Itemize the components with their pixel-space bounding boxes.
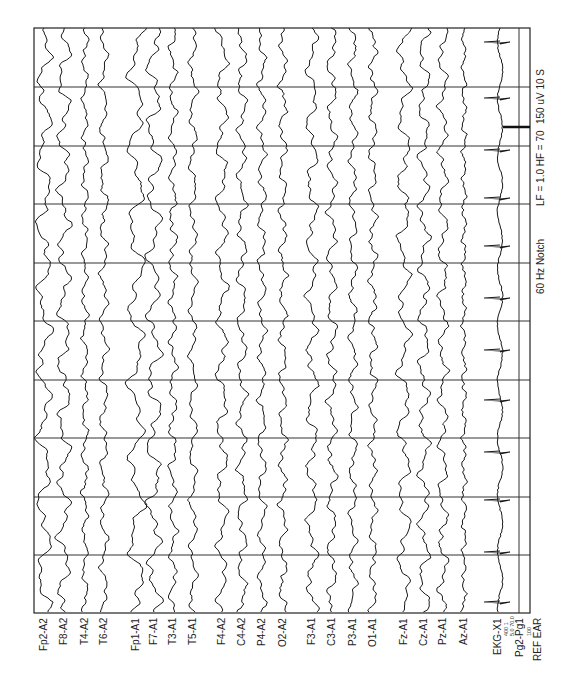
channel-trace [98,28,110,612]
notch-annotation: 60 Hz Notch [536,239,546,294]
channel-trace [235,28,249,612]
channel-trace [256,28,268,612]
qrs-spike [484,41,510,44]
channel-label: F8-A2 [59,618,69,645]
channel-label: F3-A1 [307,618,317,645]
channel-trace [168,28,179,612]
channel-trace [145,28,164,612]
qrs-spike [484,349,510,352]
channel-label: Pg2-Pg1 [515,618,525,657]
qrs-spike [484,499,510,502]
qrs-spike [484,601,510,604]
channel-label: Az-A1 [459,618,469,645]
channel-trace [395,28,413,612]
channel-label: F4-A2 [217,618,227,645]
qrs-spike [484,149,510,152]
channel-trace [347,28,358,612]
channel-trace [325,28,338,612]
channel-trace [416,28,431,612]
qrs-spike [484,245,510,248]
channel-label: C4-A2 [237,618,247,646]
channel-label: Fp1-A1 [131,618,141,651]
channel-trace [436,28,450,612]
qrs-spike [484,97,510,100]
channel-label: Fz-A1 [399,618,409,645]
filter-annotation: LF = 1.0 HF = 70 [536,130,546,206]
channel-label: C3-A1 [327,618,337,646]
channel-label: O1-A1 [368,618,378,647]
calibration-annotation: 150 uV 10 S [536,69,546,124]
channel-label: O2-A2 [278,618,288,647]
channel-trace [368,28,379,612]
channel-trace [277,28,289,612]
channel-label: Pz-A1 [438,618,448,645]
channel-trace [215,28,230,612]
qrs-spike [484,297,510,300]
channel-trace [125,28,146,612]
channel-trace [187,28,199,612]
channel-label: P3-A1 [348,618,358,646]
ekg-filter-label: 5.0 70.0 [509,616,515,636]
channel-label: Cz-A1 [419,618,429,646]
pg-gain-label: 100 [526,627,532,636]
channel-trace [304,28,320,612]
channel-trace [80,28,89,612]
channel-trace [460,28,467,612]
channel-trace [55,28,72,612]
qrs-spike [484,451,510,454]
channel-label: T4-A2 [80,618,90,645]
eeg-traces [34,28,510,612]
eeg-chart [0,0,581,688]
channel-label: Fp2-A2 [39,618,49,651]
qrs-spike [484,197,510,200]
channel-label: F7-A1 [149,618,159,645]
ekg-trace [497,28,503,612]
channel-label: T5-A1 [188,618,198,645]
channel-label: EKG-X1 [493,618,503,655]
channel-label: P4-A2 [257,618,267,646]
qrs-spike [484,399,510,402]
channel-trace [34,28,54,612]
channel-label: REF EAR [533,618,543,661]
channel-label: T3-A1 [168,618,178,645]
channel-label: T6-A2 [99,618,109,645]
